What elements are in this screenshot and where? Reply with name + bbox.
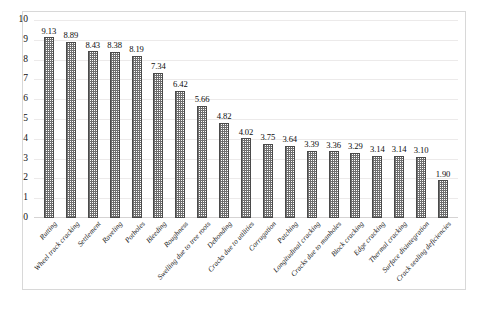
bar-slot: 3.36	[323, 20, 345, 218]
bar-value-label: 3.75	[261, 133, 276, 142]
bar-value-label: 3.14	[370, 145, 385, 154]
bar-slot: 8.19	[126, 20, 148, 218]
bar	[197, 106, 207, 218]
bar-slot: 5.66	[191, 20, 213, 218]
bar-slot: 3.14	[388, 20, 410, 218]
y-tick-label: 7	[23, 75, 28, 85]
bar-slot: 3.64	[279, 20, 301, 218]
bar-slot: 9.13	[38, 20, 60, 218]
bar-value-label: 6.42	[173, 80, 188, 89]
y-tick-label: 10	[19, 15, 29, 25]
y-tick-label: 5	[23, 114, 28, 124]
bar-slot: 3.39	[301, 20, 323, 218]
bar-value-label: 5.66	[195, 95, 210, 104]
bar	[263, 144, 273, 218]
y-tick-label: 9	[23, 35, 28, 45]
y-tick-label: 8	[23, 55, 28, 65]
bar-value-label: 8.19	[129, 45, 144, 54]
plot-area: 9.138.898.438.388.197.346.425.664.824.02…	[34, 20, 458, 218]
bar-series: 9.138.898.438.388.197.346.425.664.824.02…	[34, 20, 458, 218]
y-tick-label: 1	[23, 193, 28, 203]
bar	[153, 73, 163, 218]
bar-value-label: 1.90	[436, 170, 451, 179]
bar-value-label: 7.34	[151, 62, 166, 71]
bar-slot: 6.42	[169, 20, 191, 218]
bar-value-label: 4.02	[239, 128, 254, 137]
bar-value-label: 8.38	[107, 41, 122, 50]
bar	[416, 157, 426, 218]
bar	[44, 37, 54, 218]
bar	[394, 156, 404, 218]
bar-value-label: 3.36	[326, 141, 341, 150]
bar	[372, 156, 382, 218]
bar	[66, 42, 76, 218]
chart-figure: 109876543210 9.138.898.438.388.197.346.4…	[0, 0, 480, 312]
bar-value-label: 3.29	[348, 142, 363, 151]
bar-slot: 3.10	[410, 20, 432, 218]
bar-slot: 8.43	[82, 20, 104, 218]
x-axis-labels: RuttingWheel track crackingSettlementRav…	[34, 220, 458, 300]
bar-slot: 3.75	[257, 20, 279, 218]
bar	[110, 52, 120, 218]
bar-value-label: 3.39	[304, 140, 319, 149]
x-axis-tick-label: Raveling	[101, 220, 125, 245]
bar-slot: 8.89	[60, 20, 82, 218]
bar-value-label: 3.10	[414, 146, 429, 155]
bar-value-label: 8.43	[85, 41, 100, 50]
bar	[219, 123, 229, 218]
bar-value-label: 3.14	[392, 145, 407, 154]
bar	[307, 151, 317, 218]
bar	[241, 138, 251, 218]
y-tick-label: 3	[23, 154, 28, 164]
y-tick-label: 4	[23, 134, 28, 144]
bar	[285, 146, 295, 218]
bar-value-label: 9.13	[42, 27, 57, 36]
x-axis-tick-label: Wheel track cracking	[33, 220, 81, 272]
y-tick-label: 6	[23, 94, 28, 104]
bar-value-label: 4.82	[217, 112, 232, 121]
bar-value-label: 8.89	[64, 31, 79, 40]
bar	[350, 153, 360, 218]
y-axis: 109876543210	[0, 20, 32, 218]
bar-value-label: 3.64	[282, 135, 297, 144]
bar	[88, 51, 98, 218]
bar-slot: 4.82	[213, 20, 235, 218]
y-tick-label: 2	[23, 174, 28, 184]
x-axis-tick-label: Potholes	[123, 220, 146, 245]
bar-slot: 3.14	[366, 20, 388, 218]
bar	[175, 91, 185, 218]
bar-slot: 8.38	[104, 20, 126, 218]
bar	[329, 151, 339, 218]
y-tick-label: 0	[23, 213, 28, 223]
bar	[438, 180, 448, 218]
bar-slot: 4.02	[235, 20, 257, 218]
bar-slot: 3.29	[344, 20, 366, 218]
bar-slot: 7.34	[147, 20, 169, 218]
bar	[132, 56, 142, 218]
bar-slot: 1.90	[432, 20, 454, 218]
